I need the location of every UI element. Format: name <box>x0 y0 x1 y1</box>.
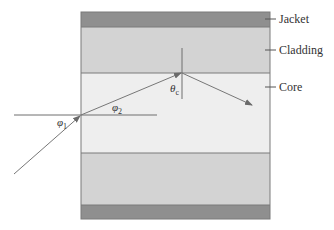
cladding-label: Cladding <box>279 44 323 56</box>
jacket-bottom <box>81 205 270 219</box>
cladding-top <box>81 27 270 73</box>
jacket-top <box>81 12 270 27</box>
phi2-label: φ2 <box>112 102 122 116</box>
jacket-label: Jacket <box>279 13 309 25</box>
cladding-bottom <box>81 153 270 205</box>
optical-fiber-diagram <box>0 0 334 230</box>
theta-c-label: θc <box>170 83 179 97</box>
core-label: Core <box>279 81 302 93</box>
phi1-label: φ1 <box>57 117 67 131</box>
incident-ray <box>14 116 80 174</box>
